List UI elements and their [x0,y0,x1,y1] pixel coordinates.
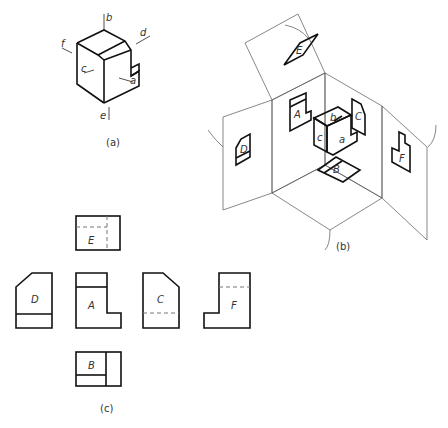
panel-b-caption: (b) [336,241,350,252]
panel-c-views: E D A C F B [16,216,250,414]
fold-arrow-right-icon [428,125,436,147]
view-label-B: B [333,164,340,175]
svg-text:D: D [31,294,39,305]
view-A: A [76,273,121,328]
panel-b-labels: E A C D F B b c a (b) [240,45,405,252]
svg-text:B: B [88,360,95,371]
face-label-b: b [330,112,336,123]
fold-arrow-left-icon [208,130,223,147]
drawing-canvas: b f c d a e (a) [0,0,448,428]
view-D: D [16,273,52,328]
svg-text:C: C [157,294,164,305]
face-label-a: a [339,134,345,145]
face-label-c: c [317,132,323,143]
direction-label-f: f [61,38,66,49]
svg-text:A: A [87,300,95,311]
view-E: E [76,216,120,250]
direction-label-b: b [106,12,112,23]
view-C: C [143,273,179,328]
view-B: B [76,352,121,386]
svg-text:F: F [231,300,237,311]
direction-label-e: e [100,110,106,121]
panel-a-arrows [62,14,150,120]
svg-text:E: E [88,235,95,246]
view-label-C: C [355,111,362,122]
direction-label-d: d [140,27,147,38]
fold-arrow-bottom-icon [325,230,330,250]
panel-c-caption: (c) [100,403,113,414]
view-label-E: E [296,45,303,56]
view-F: F [204,273,250,328]
view-label-A: A [293,109,301,120]
direction-label-a: a [130,75,136,86]
view-label-F: F [399,153,405,164]
fold-arrow-top-icon [285,25,308,38]
projection-F [392,132,410,172]
direction-label-c: c [81,63,87,74]
view-label-D: D [240,144,248,155]
panel-a-caption: (a) [106,137,120,148]
